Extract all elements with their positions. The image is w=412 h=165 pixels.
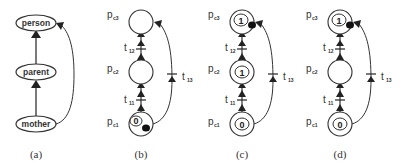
arrowhead-icon [255,20,263,28]
transition-label: t [283,71,286,82]
token-value: 1 [238,16,243,26]
panel-d: t 11 t 12 t 13 1 p c3 p [306,9,392,161]
transition-subscript: 12 [328,48,334,54]
arrowhead-icon [31,80,41,88]
transition-t12: t 12 [225,31,247,60]
place-subscript: c1 [113,122,119,128]
place-pc3: 1 p c3 [306,9,354,34]
panel-b: t 11 t 12 t 13 p c3 p c2 [107,9,193,161]
place-subscript: c3 [214,15,220,21]
transition-label: t [225,42,228,53]
transition-t11: t 11 [323,82,345,111]
transition-t13: t 13 [167,71,193,83]
transition-label: t [323,94,326,105]
caption: (c) [236,148,249,161]
transition-subscript: 13 [386,77,392,83]
edge-mother-person [56,26,74,124]
transition-label: t [323,42,326,53]
arrowhead-icon [56,22,64,30]
node-parent: parent [16,64,56,80]
arrowhead-icon [353,20,361,28]
transition-t13: t 13 [366,71,392,83]
node-label: parent [23,67,49,77]
transition-t11: t 11 [225,82,247,111]
place-subscript: c2 [312,69,318,75]
place-pc2: p c2 [107,60,153,84]
transition-t13: t 13 [268,71,294,83]
token-value: 1 [336,16,341,26]
transition-subscript: 13 [288,77,294,83]
token-dot-icon [248,22,256,29]
place-pc1: 0 p c1 [208,112,254,136]
transition-label: t [124,42,127,53]
place-pc3: p c3 [107,9,153,34]
transition-subscript: 12 [129,48,135,54]
place-subscript: c2 [113,69,119,75]
transition-subscript: 11 [230,100,236,106]
token-value: 1 [239,68,244,78]
place-subscript: c2 [214,69,220,75]
node-label: mother [22,119,52,129]
caption: (b) [135,148,148,161]
token-dot-icon [346,22,354,29]
token-value: 0 [133,116,138,126]
panel-a: person parent mother (a) [16,15,74,161]
transition-label: t [225,94,228,105]
transition-label: t [124,94,127,105]
token-value: 0 [239,120,244,130]
place-pc3: 1 p c3 [208,9,256,34]
transition-t12: t 12 [323,31,345,60]
transition-label: t [381,71,384,82]
panel-c: t 11 t 12 t 13 1 p c3 [208,9,294,161]
transition-subscript: 11 [328,100,334,106]
node-mother: mother [16,116,56,132]
transition-label: t [182,71,185,82]
node-label: person [22,18,50,28]
transition-t12: t 12 [124,31,146,60]
place-pc1: 0 p c1 [107,112,153,136]
place-subscript: c1 [312,122,318,128]
place-pc1: 0 p c1 [306,112,352,136]
transition-t11: t 11 [124,82,146,111]
transition-subscript: 13 [187,77,193,83]
node-person: person [16,15,56,31]
transition-subscript: 12 [230,48,236,54]
figure-canvas: person parent mother (a) t 11 [0,0,412,165]
transition-subscript: 11 [129,100,135,106]
place-subscript: c3 [312,15,318,21]
arrowhead-icon [154,20,162,28]
place-subscript: c1 [214,122,220,128]
place-pc2: 1 p c2 [208,60,254,84]
place-subscript: c3 [113,15,119,21]
place-pc2: p c2 [306,60,352,84]
token-dot-icon [142,125,150,132]
caption: (d) [334,148,347,161]
token-value: 0 [337,120,342,130]
caption: (a) [30,148,43,161]
